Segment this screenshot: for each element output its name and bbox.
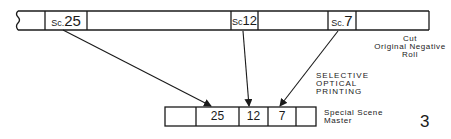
master-cell-12: 12 [239,108,268,125]
master-cell-25: 25 [196,108,239,125]
label-line: Roll [370,51,450,59]
scene-prefix: Sc. [51,18,64,28]
scene-prefix: Sc [232,17,243,27]
original-negative-label: Cut Original Negative Roll [370,35,450,59]
label-line: PRINTING [316,88,369,96]
torn-edge-icon [17,11,20,30]
arrow-scene-12 [243,31,249,106]
master-cell [165,108,196,125]
master-cell [296,108,316,125]
scene-number: 12 [243,12,257,29]
scene-12-label: Sc12 [231,12,258,29]
arrow-scene-25 [63,30,211,106]
scene-25-label: Sc.25 [45,12,87,29]
scene-number: 25 [64,12,81,29]
figure-number: 3 [420,113,429,130]
scene-prefix: Sc. [331,18,344,28]
label-line: Master [324,117,383,125]
special-scene-master-label: Special Scene Master [324,109,383,125]
scene-7-label: Sc.7 [328,12,356,29]
scene-number: 7 [344,12,352,29]
master-cell-7: 7 [268,108,296,125]
selective-optical-printing-label: SELECTIVE OPTICAL PRINTING [316,72,369,96]
